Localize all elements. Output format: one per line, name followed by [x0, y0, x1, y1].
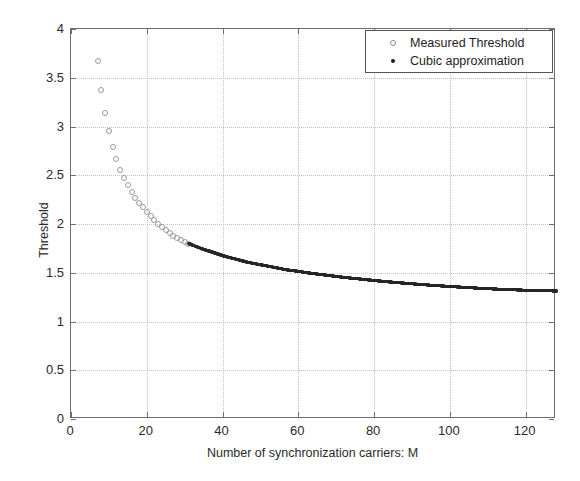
data-point-cubic: [501, 288, 504, 291]
data-point-measured: [113, 156, 119, 162]
y-axis-tick: [549, 224, 554, 225]
data-point-cubic: [363, 278, 366, 281]
data-point-cubic: [383, 280, 386, 283]
data-point-cubic: [523, 289, 526, 292]
data-point-cubic: [511, 288, 514, 291]
data-point-cubic: [335, 275, 338, 278]
x-axis-tick: [223, 29, 224, 34]
data-point-cubic: [328, 274, 331, 277]
data-point-cubic: [489, 287, 492, 290]
data-point-cubic: [332, 274, 335, 277]
data-point-cubic: [429, 284, 432, 287]
data-point-cubic: [237, 258, 240, 261]
data-point-cubic: [413, 282, 416, 285]
data-point-cubic: [486, 287, 489, 290]
data-point-cubic: [300, 270, 303, 273]
data-point-cubic: [285, 268, 288, 271]
data-point-cubic: [197, 246, 200, 249]
gridline-vertical: [298, 29, 299, 417]
data-point-cubic: [507, 288, 510, 291]
data-point-cubic: [426, 283, 429, 286]
data-point-cubic: [416, 283, 419, 286]
data-point-cubic: [352, 277, 355, 280]
data-point-cubic: [548, 289, 551, 292]
data-point-cubic: [441, 284, 444, 287]
data-point-cubic: [344, 276, 347, 279]
data-point-cubic: [495, 288, 498, 291]
data-point-cubic: [224, 255, 227, 258]
data-point-measured: [182, 239, 188, 245]
data-point-cubic: [526, 289, 529, 292]
y-axis-tick: [549, 370, 554, 371]
data-point-cubic: [285, 268, 288, 271]
data-point-cubic: [319, 273, 322, 276]
data-point-cubic: [513, 288, 516, 291]
data-point-cubic: [282, 268, 285, 271]
data-point-measured: [98, 87, 104, 93]
gridline-vertical: [450, 29, 451, 417]
data-point-cubic: [247, 261, 250, 264]
data-point-cubic: [360, 278, 363, 281]
data-point-cubic: [438, 284, 441, 287]
data-point-cubic: [459, 286, 462, 289]
data-point-cubic: [457, 285, 460, 288]
data-point-cubic: [301, 270, 304, 273]
data-point-cubic: [187, 242, 190, 245]
gridline-vertical: [526, 29, 527, 417]
data-point-cubic: [248, 261, 251, 264]
data-point-cubic: [229, 256, 232, 259]
data-point-cubic: [545, 289, 548, 292]
data-point-cubic: [527, 289, 530, 292]
data-point-cubic: [333, 275, 336, 278]
data-point-cubic: [313, 272, 316, 275]
data-point-cubic: [411, 282, 414, 285]
y-axis-tick: [71, 224, 76, 225]
data-point-cubic: [213, 251, 216, 254]
data-point-cubic: [257, 263, 260, 266]
data-point-cubic: [255, 262, 258, 265]
data-point-cubic: [288, 269, 291, 272]
data-point-cubic: [205, 249, 208, 252]
data-point-cubic: [420, 283, 423, 286]
data-point-cubic: [517, 288, 520, 291]
data-point-cubic: [199, 247, 202, 250]
data-point-cubic: [551, 289, 554, 292]
data-point-cubic: [286, 268, 289, 271]
data-point-measured: [144, 209, 150, 215]
data-point-cubic: [366, 278, 369, 281]
y-axis-tick: [549, 127, 554, 128]
data-point-cubic: [477, 287, 480, 290]
data-point-cubic: [283, 268, 286, 271]
data-point-cubic: [455, 285, 458, 288]
data-point-cubic: [274, 266, 277, 269]
data-point-cubic: [468, 286, 471, 289]
gridline-horizontal: [71, 273, 554, 274]
data-point-cubic: [239, 259, 242, 262]
plot-area: [70, 28, 555, 418]
data-point-cubic: [385, 280, 388, 283]
data-point-cubic: [298, 270, 301, 273]
data-point-cubic: [192, 244, 195, 247]
data-point-cubic: [327, 274, 330, 277]
y-tick-label: 0: [57, 411, 64, 426]
data-point-cubic: [497, 288, 500, 291]
data-point-cubic: [478, 287, 481, 290]
y-tick-label: 1: [57, 313, 64, 328]
data-point-cubic: [467, 286, 470, 289]
data-point-cubic: [423, 283, 426, 286]
data-point-cubic: [421, 283, 424, 286]
data-point-cubic: [313, 272, 316, 275]
data-point-cubic: [386, 280, 389, 283]
data-point-cubic: [254, 262, 257, 265]
data-point-cubic: [341, 276, 344, 279]
data-point-cubic: [284, 268, 287, 271]
data-point-cubic: [410, 282, 413, 285]
data-point-cubic: [485, 287, 488, 290]
data-point-cubic: [370, 279, 373, 282]
data-point-cubic: [278, 267, 281, 270]
data-point-cubic: [282, 268, 285, 271]
data-point-cubic: [302, 271, 305, 274]
data-point-cubic: [554, 289, 557, 292]
data-point-cubic: [460, 286, 463, 289]
open-circle-icon: [376, 40, 410, 46]
